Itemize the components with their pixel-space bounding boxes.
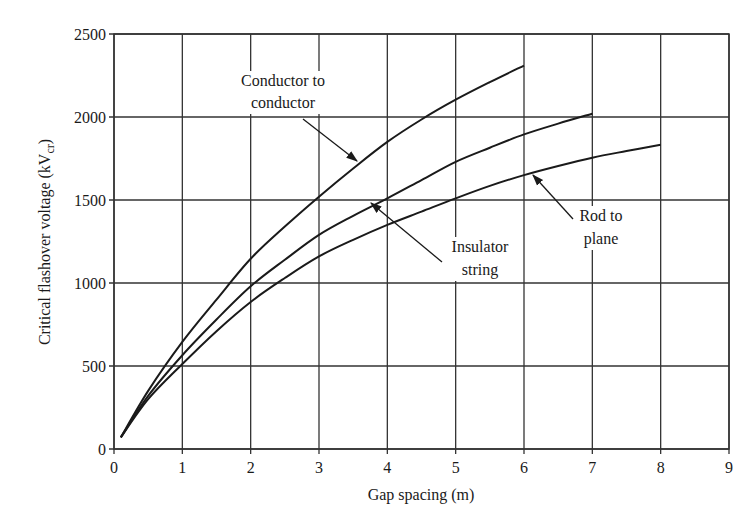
annotation-conductor-to-conductor: Conductor toconductor [230,71,357,161]
x-tick-label: 4 [383,459,391,476]
y-tick-label: 1000 [74,275,106,292]
x-tick-label: 9 [725,459,733,476]
x-tick-label: 0 [110,459,118,476]
annotation-text: string [462,261,498,279]
x-axis-tick-labels: 0123456789 [110,459,733,476]
x-tick-label: 3 [315,459,323,476]
annotation-text: Rod to [579,207,622,224]
annotation-arrow [371,203,442,262]
y-axis-tick-labels: 05001000150020002500 [74,26,106,458]
y-tick-label: 0 [98,441,106,458]
x-axis-title: Gap spacing (m) [368,486,475,504]
plot-frame [114,34,729,449]
annotation-text: plane [584,230,619,248]
annotation-rod-to-plane: Rod toplane [533,175,629,250]
x-tick-label: 1 [178,459,186,476]
y-tick-label: 2000 [74,109,106,126]
annotation-insulator-string: Insulatorstring [371,203,520,281]
series-line-insulator-string [121,114,592,438]
x-tick-label: 5 [452,459,460,476]
annotation-arrow [303,119,357,161]
y-tick-label: 1500 [74,192,106,209]
annotation-text: Conductor to [241,72,325,89]
y-tick-label: 500 [82,358,106,375]
y-tick-label: 2500 [74,26,106,43]
x-tick-label: 7 [588,459,596,476]
x-tick-label: 2 [247,459,255,476]
annotation-text: Insulator [452,238,510,255]
annotation-text: conductor [251,94,316,111]
flashover-voltage-chart: 0123456789 05001000150020002500 Conducto… [0,0,754,532]
x-tick-label: 6 [520,459,528,476]
series-line-rod-to-plane [121,145,661,438]
x-tick-label: 8 [657,459,665,476]
annotation-arrow [533,175,573,219]
grid-lines [109,34,729,454]
y-axis-title: Critical flashover voltage (kVcr) [36,139,57,345]
data-series [121,66,661,438]
